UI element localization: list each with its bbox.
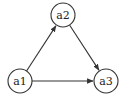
node-a2: a2 (51, 3, 75, 27)
edge-a2-a3 (70, 25, 99, 70)
nodes: a1a2a3 (8, 3, 118, 93)
node-label: a2 (56, 9, 70, 22)
graph-canvas: a1a2a3 (0, 0, 127, 102)
node-a1: a1 (8, 69, 32, 93)
edges (27, 25, 99, 81)
node-label: a1 (13, 75, 27, 88)
node-a3: a3 (94, 69, 118, 93)
node-label: a3 (99, 75, 113, 88)
edge-a1-a2 (27, 26, 56, 71)
